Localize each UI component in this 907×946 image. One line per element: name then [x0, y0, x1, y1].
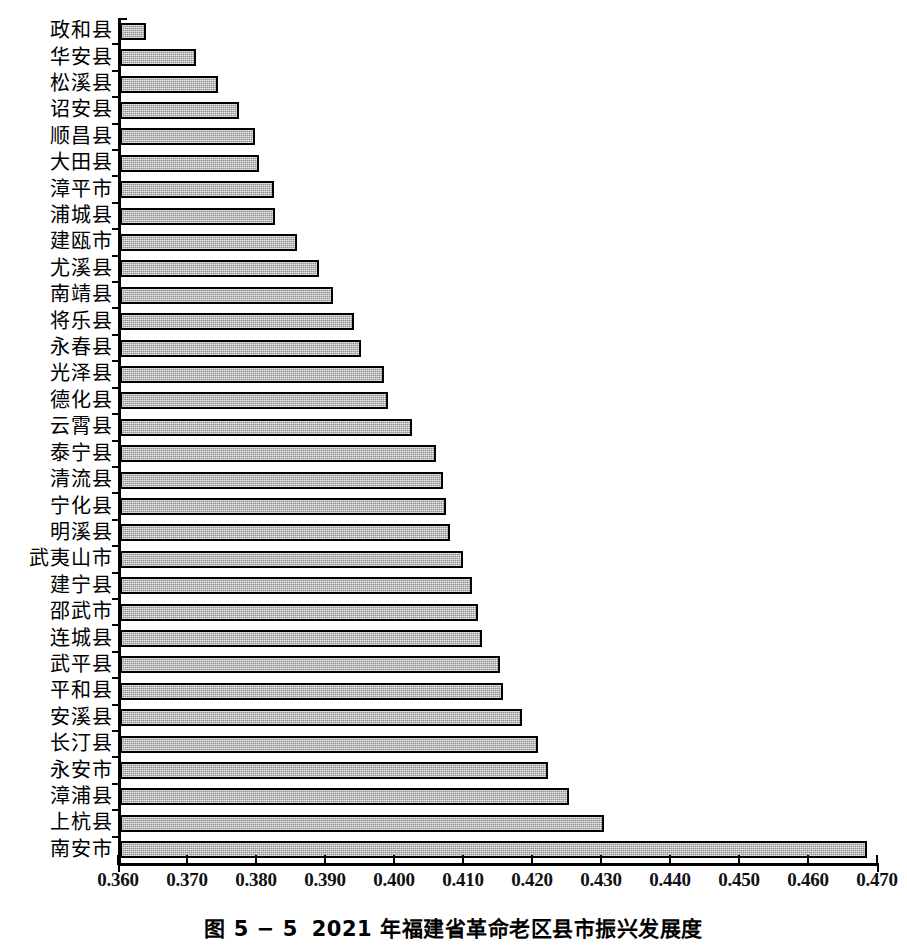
chart-row: 漳平市	[0, 176, 907, 202]
chart-row: 建宁县	[0, 573, 907, 599]
chart-row: 永春县	[0, 335, 907, 361]
value-tick	[531, 855, 533, 865]
bar	[120, 472, 443, 489]
bar	[120, 234, 297, 251]
bar	[120, 841, 867, 858]
category-label: 长汀县	[50, 733, 113, 753]
chart-row: 光泽县	[0, 361, 907, 387]
category-label: 将乐县	[50, 311, 113, 331]
figure-caption: 图 5 − 52021 年福建省革命老区县市振兴发展度	[0, 912, 907, 942]
value-tick-label: 0.410	[423, 869, 503, 891]
chart-row: 上杭县	[0, 810, 907, 836]
value-tick	[393, 855, 395, 865]
bar	[120, 340, 361, 357]
chart-row: 松溪县	[0, 71, 907, 97]
chart-row: 安溪县	[0, 705, 907, 731]
value-tick	[669, 855, 671, 865]
category-label: 南安市	[50, 839, 113, 859]
bar	[120, 551, 463, 568]
category-label: 松溪县	[50, 73, 113, 93]
value-tick-label: 0.420	[492, 869, 572, 891]
value-tick-label: 0.380	[216, 869, 296, 891]
category-label: 清流县	[50, 469, 113, 489]
bar	[120, 23, 146, 40]
value-tick-label: 0.460	[768, 869, 848, 891]
chart-row: 宁化县	[0, 493, 907, 519]
category-label: 邵武市	[50, 601, 113, 621]
bar	[120, 128, 255, 145]
category-label: 安溪县	[50, 707, 113, 727]
chart-row: 华安县	[0, 44, 907, 70]
value-tick-label: 0.450	[699, 869, 779, 891]
value-tick	[255, 855, 257, 865]
category-label: 建瓯市	[50, 231, 113, 251]
value-tick	[186, 855, 188, 865]
bar	[120, 287, 333, 304]
value-tick-label: 0.360	[78, 869, 158, 891]
category-label: 政和县	[50, 20, 113, 40]
category-label: 泰宁县	[50, 443, 113, 463]
bar	[120, 181, 274, 198]
chart-row: 云霄县	[0, 414, 907, 440]
bar	[120, 102, 239, 119]
chart-row: 尤溪县	[0, 256, 907, 282]
bar	[120, 656, 500, 673]
bar	[120, 445, 436, 462]
value-tick-label: 0.370	[147, 869, 227, 891]
chart-row: 泰宁县	[0, 441, 907, 467]
category-label: 大田县	[50, 152, 113, 172]
category-label: 连城县	[50, 628, 113, 648]
category-label: 光泽县	[50, 363, 113, 383]
category-label: 建宁县	[50, 575, 113, 595]
chart-row: 德化县	[0, 388, 907, 414]
value-tick	[117, 855, 119, 865]
bar	[120, 762, 548, 779]
chart-row: 大田县	[0, 150, 907, 176]
bar	[120, 49, 196, 66]
category-label: 华安县	[50, 47, 113, 67]
bar	[120, 577, 472, 594]
bar	[120, 498, 446, 515]
bar	[120, 709, 522, 726]
category-label: 德化县	[50, 390, 113, 410]
category-label: 漳平市	[50, 179, 113, 199]
bar	[120, 313, 354, 330]
chart-row: 长汀县	[0, 731, 907, 757]
category-label: 武平县	[50, 654, 113, 674]
category-label: 浦城县	[50, 205, 113, 225]
bar	[120, 788, 569, 805]
chart-row: 建瓯市	[0, 229, 907, 255]
value-tick	[876, 855, 878, 865]
chart-row: 诏安县	[0, 97, 907, 123]
category-label: 明溪县	[50, 522, 113, 542]
category-label: 武夷山市	[29, 548, 113, 568]
value-tick-label: 0.430	[561, 869, 641, 891]
bar	[120, 604, 478, 621]
category-label: 云霄县	[50, 416, 113, 436]
bar	[120, 260, 319, 277]
category-label: 南靖县	[50, 284, 113, 304]
bar	[120, 76, 218, 93]
category-label: 诏安县	[50, 99, 113, 119]
category-label: 上杭县	[50, 812, 113, 832]
chart-row: 武夷山市	[0, 546, 907, 572]
chart-row: 政和县	[0, 18, 907, 44]
bar	[120, 366, 384, 383]
bar	[120, 683, 503, 700]
value-tick-label: 0.440	[630, 869, 710, 891]
bar	[120, 815, 604, 832]
chart-row: 平和县	[0, 678, 907, 704]
figure-caption-number: 图 5 − 5	[204, 917, 297, 941]
bar	[120, 155, 259, 172]
bar	[120, 524, 450, 541]
category-label: 平和县	[50, 680, 113, 700]
category-label: 尤溪县	[50, 258, 113, 278]
figure-caption-text: 2021 年福建省革命老区县市振兴发展度	[312, 917, 703, 941]
value-tick	[324, 855, 326, 865]
bar	[120, 392, 388, 409]
chart-row: 清流县	[0, 467, 907, 493]
chart-row: 顺昌县	[0, 124, 907, 150]
chart-row: 连城县	[0, 625, 907, 651]
chart-row: 南靖县	[0, 282, 907, 308]
chart-row: 漳浦县	[0, 784, 907, 810]
